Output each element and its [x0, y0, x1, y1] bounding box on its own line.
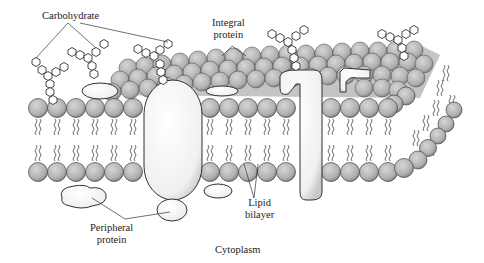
label-carbohydrate: Carbohydrate [42, 10, 99, 22]
label-integral-protein-line2: protein [212, 29, 245, 41]
inner-leaflet-heads [29, 159, 414, 182]
fatty-acid-tails [35, 119, 391, 161]
label-peripheral-protein-line1: Peripheral [90, 222, 133, 234]
integral-protein-large [144, 80, 202, 200]
membrane-diagram: Carbohydrate Integral protein Lipid bila… [0, 0, 484, 263]
label-peripheral-protein-line2: protein [90, 234, 133, 246]
label-peripheral-protein: Peripheral protein [90, 222, 133, 246]
label-lipid-bilayer-line2: bilayer [245, 209, 274, 221]
label-integral-protein: Integral protein [212, 17, 245, 41]
label-lipid-bilayer-line1: Lipid [245, 197, 274, 209]
label-lipid-bilayer: Lipid bilayer [245, 197, 274, 221]
label-cytoplasm: Cytoplasm [215, 244, 261, 256]
label-integral-protein-line1: Integral [212, 17, 245, 29]
outer-leaflet-heads [29, 99, 398, 118]
